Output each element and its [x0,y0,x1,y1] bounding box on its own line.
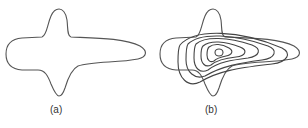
contour-ring-5 [207,44,232,61]
contour-core [215,49,223,56]
figure-canvas [0,0,308,128]
shape-outline-a [6,9,145,96]
panel-b-label: (b) [205,105,217,115]
panel-a-shape [6,9,145,96]
panel-b-shape [160,9,299,96]
panel-a-label: (a) [50,105,62,115]
shape-outline-b [160,9,299,96]
